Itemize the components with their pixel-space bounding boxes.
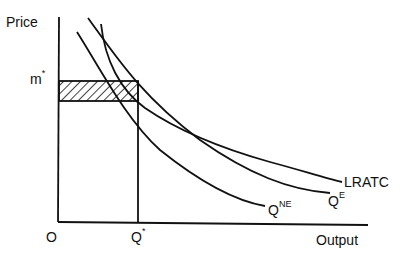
origin-label: O bbox=[46, 230, 57, 244]
x-axis-label: Output bbox=[316, 233, 358, 247]
lratc-label: LRATC bbox=[344, 175, 389, 189]
y-axis-label: Price bbox=[6, 15, 38, 29]
q-e-sup: E bbox=[339, 190, 345, 200]
price-level-label: m* bbox=[30, 72, 45, 86]
m-label: m bbox=[30, 71, 42, 87]
q-star-label: Q* bbox=[131, 230, 145, 244]
q-e-label: QE bbox=[328, 194, 345, 208]
y-axis bbox=[58, 17, 59, 222]
curve-q-ne bbox=[77, 32, 265, 206]
q-e-base: Q bbox=[328, 193, 339, 209]
diagram-svg bbox=[0, 0, 408, 260]
curve-q-e bbox=[88, 18, 330, 193]
x-axis bbox=[58, 222, 368, 225]
q-ne-sup: NE bbox=[279, 199, 292, 209]
m-star: * bbox=[42, 68, 46, 78]
q-ne-base: Q bbox=[268, 202, 279, 218]
q-label: Q bbox=[131, 229, 142, 245]
q-ne-label: QNE bbox=[268, 203, 291, 217]
q-star: * bbox=[142, 226, 146, 236]
diagram-canvas: Price m* O Q* Output LRATC QE QNE bbox=[0, 0, 408, 260]
